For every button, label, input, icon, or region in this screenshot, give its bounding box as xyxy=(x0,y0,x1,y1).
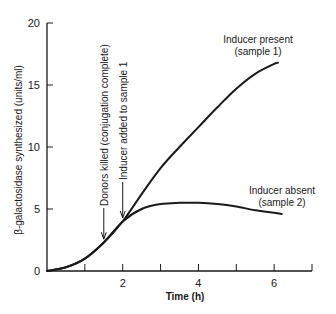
curves xyxy=(47,63,282,271)
annotation-donors-killed: Donors killed (conjugation complete) xyxy=(99,44,110,206)
y-tick-label: 15 xyxy=(28,79,40,91)
y-tick-label: 5 xyxy=(34,203,40,215)
curve-inducer-present xyxy=(47,63,278,271)
annotation-inducer-added: Inducer added to sample 1 xyxy=(118,61,129,180)
curve-inducer-absent xyxy=(47,203,282,271)
series-label-absent-sub: (sample 2) xyxy=(258,197,305,208)
x-tick-label: 2 xyxy=(120,277,126,289)
series-label-present: Inducer present xyxy=(223,34,293,45)
y-tick-label: 20 xyxy=(28,17,40,29)
x-axis-label: Time (h) xyxy=(166,291,205,302)
chart: 05101520246 Time (h) β-galactosidase syn… xyxy=(0,0,336,314)
y-tick-label: 10 xyxy=(28,141,40,153)
ticks: 05101520246 xyxy=(28,17,312,289)
x-tick-label: 4 xyxy=(195,277,201,289)
y-tick-label: 0 xyxy=(34,265,40,277)
series-label-present-sub: (sample 1) xyxy=(234,46,281,57)
y-axis-label: β-galactosidase synthesized (units/ml) xyxy=(13,65,24,235)
x-tick-label: 6 xyxy=(271,277,277,289)
series-label-absent: Inducer absent xyxy=(249,185,315,196)
